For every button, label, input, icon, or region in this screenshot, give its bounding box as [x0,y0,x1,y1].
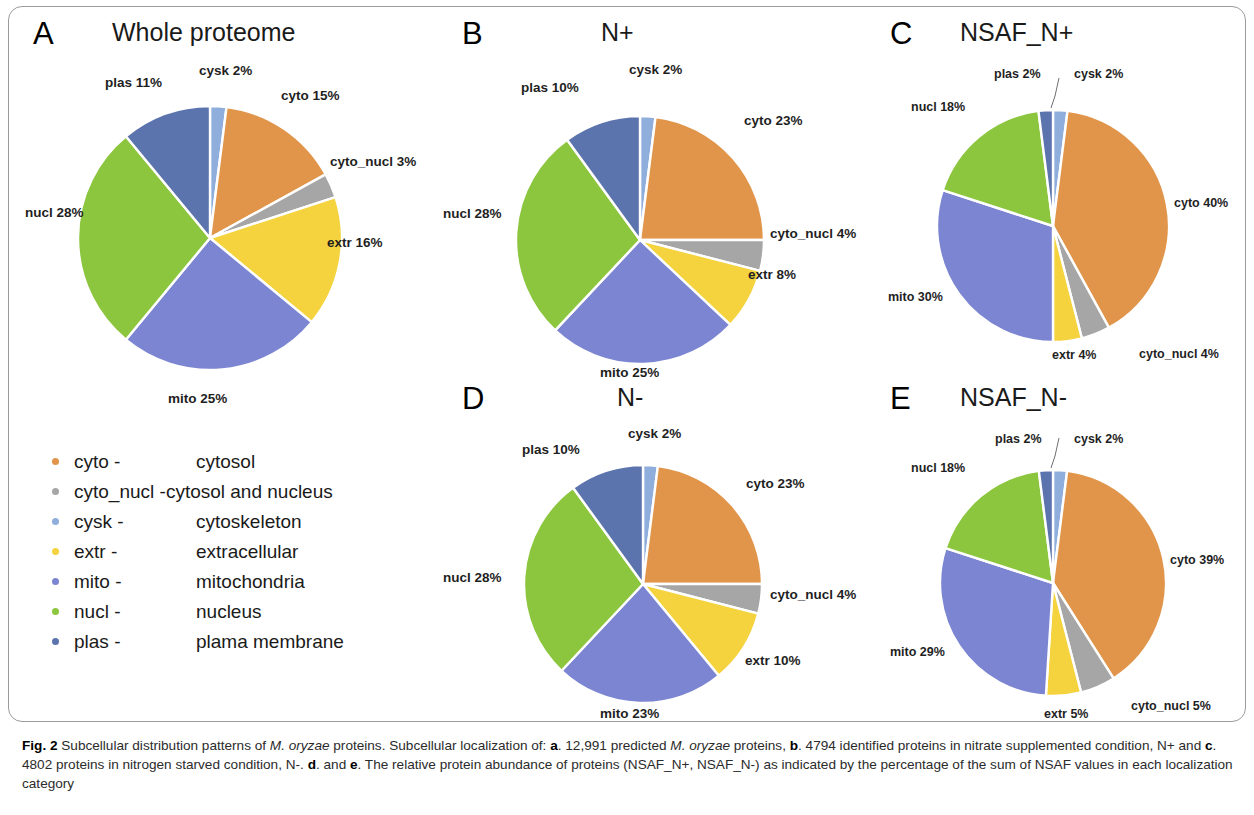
panel-title-a: Whole proteome [112,20,295,45]
legend-name: plama membrane [196,627,344,657]
leader-line-path [1051,438,1059,468]
legend-swatch-cell [36,581,74,588]
legend: cyto -cytosolcyto_nucl - cytosol and nuc… [36,447,416,657]
legend-name: extracellular [196,537,298,567]
caption-text: c [1205,738,1213,753]
panel-letter-b: B [462,18,483,49]
caption-text: a [550,738,558,753]
pie-label-d-cysk: cysk 2% [628,427,681,441]
pie-chart-c [931,104,1175,348]
pie-label-b-mito: mito 25% [600,366,659,380]
legend-abbr: cyto - [74,447,196,477]
legend-name: cytoskeleton [196,507,302,537]
legend-swatch-cell [36,521,74,528]
legend-swatch-cell [36,551,74,558]
pie-label-b-cysk: cysk 2% [629,63,682,77]
caption-text: e [350,757,358,772]
caption-text: M. oryzae [670,738,730,753]
pie-slice-cyto [640,117,764,240]
pie-label-b-cyto_nucl: cyto_nucl 4% [770,227,856,241]
pie-label-c-plas: plas 2% [994,68,1041,81]
legend-name: nucleus [196,597,262,627]
legend-color-dot-icon [52,488,59,495]
pie-label-c-cyto: cyto 40% [1174,197,1228,210]
legend-item-cysk: cysk -cytoskeleton [36,507,416,537]
pie-label-c-mito: mito 30% [888,291,943,304]
legend-item-nucl: nucl -nucleus [36,597,416,627]
legend-name: cytosol and nucleus [166,477,333,507]
legend-name: cytosol [196,447,255,477]
pie-label-c-cyto_nucl: cyto_nucl 4% [1139,348,1219,361]
legend-swatch-cell [36,491,74,498]
legend-swatch-cell [36,461,74,468]
pie-label-d-nucl: nucl 28% [443,571,502,585]
pie-label-c-cysk: cysk 2% [1074,68,1123,81]
pie-label-e-cyto: cyto 39% [1170,554,1224,567]
pie-chart-d [518,459,768,709]
figure-root: AWhole proteomecysk 2%cyto 15%cyto_nucl … [0,0,1254,815]
legend-item-cyto_nucl: cyto_nucl - cytosol and nucleus [36,477,416,507]
pie-label-e-cyto_nucl: cyto_nucl 5% [1131,700,1211,713]
caption-text: proteins. Subcellular localization of: [330,738,551,753]
panel-letter-d: D [462,383,484,414]
legend-abbr: extr - [74,537,196,567]
caption-text: Subcellular distribution patterns of [58,738,270,753]
pie-label-a-cysk: cysk 2% [199,64,252,78]
pie-label-b-extr: extr 8% [748,268,796,282]
panel-title-d: N- [617,385,643,410]
pie-label-a-cyto_nucl: cyto_nucl 3% [330,155,416,169]
legend-item-extr: extr -extracellular [36,537,416,567]
pie-chart-b [510,110,770,370]
leader-line-path [1051,78,1059,108]
panel-letter-a: A [33,18,54,49]
pie-label-e-extr: extr 5% [1044,708,1088,721]
legend-color-dot-icon [52,518,59,525]
legend-item-plas: plas -plama membrane [36,627,416,657]
legend-name: mitochondria [196,567,305,597]
pie-label-a-nucl: nucl 28% [25,206,84,220]
pie-label-c-extr: extr 4% [1052,349,1096,362]
pie-chart-a [72,100,348,376]
panel-letter-c: C [890,18,912,49]
pie-label-e-mito: mito 29% [890,646,945,659]
pie-label-b-nucl: nucl 28% [443,207,502,221]
figure-caption: Fig. 2 Subcellular distribution patterns… [22,736,1238,794]
legend-color-dot-icon [52,578,59,585]
pie-label-a-cyto: cyto 15% [281,89,340,103]
pie-label-b-cyto: cyto 23% [744,114,803,128]
legend-swatch-cell [36,641,74,648]
legend-abbr: cyto_nucl - [74,477,166,507]
pie-chart-e [934,464,1172,702]
pie-label-a-plas: plas 11% [105,76,162,90]
pie-label-d-cyto_nucl: cyto_nucl 4% [770,588,856,602]
caption-text: . 12,991 predicted [558,738,671,753]
pie-label-d-mito: mito 23% [600,707,659,721]
caption-body: Subcellular distribution patterns of M. … [22,738,1233,791]
legend-color-dot-icon [52,608,59,615]
pie-label-a-extr: extr 16% [327,236,383,250]
pie-label-e-plas: plas 2% [995,433,1042,446]
legend-abbr: nucl - [74,597,196,627]
caption-text: M. oryzae [270,738,330,753]
caption-text: d [308,757,316,772]
legend-color-dot-icon [52,458,59,465]
legend-item-cyto: cyto -cytosol [36,447,416,477]
legend-swatch-cell [36,611,74,618]
caption-text: . 4794 identified proteins in nitrate su… [798,738,1205,753]
panel-title-e: NSAF_N- [960,385,1067,410]
caption-text: . and [316,757,350,772]
legend-color-dot-icon [52,548,59,555]
panel-letter-e: E [890,383,911,414]
pie-slice-cyto [643,466,762,584]
legend-abbr: plas - [74,627,196,657]
legend-color-dot-icon [52,638,59,645]
pie-label-c-nucl: nucl 18% [911,101,965,114]
pie-label-e-nucl: nucl 18% [911,462,965,475]
panel-title-c: NSAF_N+ [960,20,1073,45]
legend-item-mito: mito -mitochondria [36,567,416,597]
pie-label-d-extr: extr 10% [745,654,801,668]
caption-text: proteins, [730,738,790,753]
panel-title-b: N+ [601,20,634,45]
pie-label-e-cysk: cysk 2% [1074,433,1123,446]
pie-label-d-cyto: cyto 23% [746,477,805,491]
